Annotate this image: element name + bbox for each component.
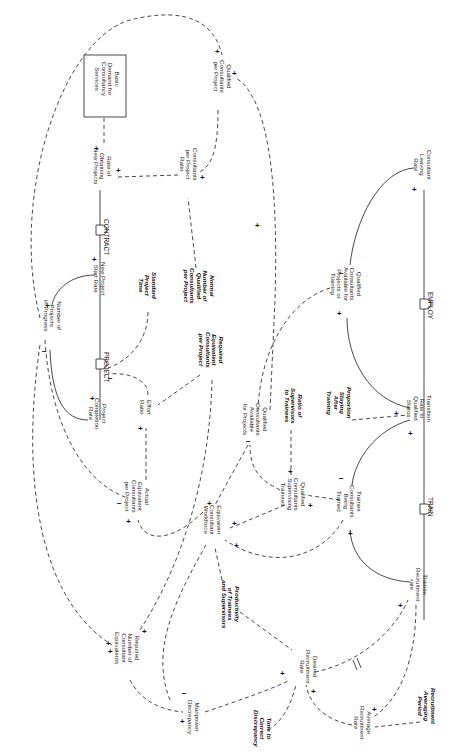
node-trainee-recruitment: TraineeRecruitmentrate — [408, 568, 428, 601]
sign-minus: − — [117, 500, 122, 508]
sign-plus: + — [116, 167, 121, 175]
sign-plus: + — [232, 70, 237, 78]
valve-label-employ: EMPLOY — [427, 292, 434, 319]
sign-plus: + — [215, 48, 220, 56]
sign-plus: + — [92, 256, 97, 264]
node-effort-ratio: EffortRatio — [139, 400, 152, 415]
link-sup-to-qcap — [250, 445, 280, 490]
node-label-line: Desired — [311, 650, 318, 683]
node-label-line: Discrepancy — [187, 700, 194, 734]
sign-plus: + — [232, 520, 237, 528]
node-averaging-period: RecruitmentAveragingPeriod — [416, 688, 436, 724]
node-label-line: Trainees — [280, 478, 287, 511]
sign-plus: + — [94, 145, 99, 153]
node-label-line: Discrepancy — [252, 710, 259, 747]
link-trainee-to-avg — [372, 605, 416, 718]
sign-plus: + — [311, 688, 316, 696]
link-prop-to-transition — [352, 415, 408, 420]
link-sup-to-workforce — [230, 505, 285, 528]
node-proportion-staying: ProportionStayingAfterTraining — [326, 387, 352, 419]
node-new-project-start: New ProjectStart Rate — [93, 262, 106, 295]
node-label-line: Training — [326, 387, 333, 419]
link-projects-to-actual — [45, 340, 125, 497]
node-label-line: Trained — [336, 485, 343, 518]
sign-minus: − — [42, 348, 47, 356]
flow-recruit-to-trainees — [350, 530, 410, 582]
node-label-line: Consultants — [130, 480, 137, 513]
node-required-equiv: RequiredEquivalentConsultantsper Project — [198, 332, 224, 368]
sign-plus: + — [394, 410, 399, 418]
node-standard-time: StandardProjectTime — [137, 272, 157, 299]
node-label-line: to Trainees — [283, 388, 290, 424]
sign-plus: + — [126, 518, 131, 526]
node-label-line: Productivity — [233, 580, 240, 629]
node-label-line: Actual — [143, 480, 150, 513]
sign-plus: + — [348, 530, 353, 538]
node-label-line: Start Rate — [93, 262, 100, 295]
node-rate-obtaining: Rate ofObtainingNew Projects — [92, 148, 112, 184]
node-label-line: Rate — [352, 706, 359, 739]
node-label-line: Qualified — [355, 267, 362, 301]
node-label-line: Normal — [208, 268, 215, 304]
sign-plus: + — [412, 186, 417, 194]
node-label-line: Qualified — [225, 60, 232, 93]
sign-minus: − — [339, 475, 344, 483]
node-label-line: Period — [416, 688, 423, 724]
node-label-line: Consultancy — [100, 62, 107, 96]
link-effort-to-project — [108, 374, 148, 395]
node-label-line: Workforce — [202, 505, 209, 535]
sign-plus: + — [372, 706, 377, 714]
node-label-line: Project — [100, 398, 107, 429]
node-label-line: Required — [133, 632, 140, 664]
node-normal-number: NormalNumber ofQualifiedConsultantsper P… — [182, 268, 215, 304]
node-label-line: Transition — [425, 395, 432, 422]
node-equiv-workforce: EquivalentConsultantWorkforce — [202, 505, 222, 535]
valve-label-train: TRAIN — [427, 497, 434, 517]
sign-plus: + — [180, 718, 185, 726]
link-period-to-avg — [375, 722, 420, 727]
node-label-line: Time to — [265, 710, 272, 747]
node-label-line: per Project — [124, 480, 131, 513]
sign-plus: + — [45, 302, 50, 310]
link-qcap-to-workforce — [215, 445, 248, 505]
node-label-line: Qualified — [195, 268, 202, 304]
link-manpower-to-desired — [205, 680, 290, 712]
node-label-line: Basic — [113, 62, 120, 96]
node-productivity: Productivityof Traineesand Supervisors — [220, 580, 240, 629]
sign-plus: + — [207, 500, 212, 508]
sign-plus: + — [138, 425, 143, 433]
node-label-line: Equivalent — [215, 505, 222, 535]
sign-plus: + — [142, 628, 147, 636]
link-req-to-required-number — [140, 380, 212, 630]
node-label-line: Rate — [412, 150, 419, 180]
node-label-line: Qualified — [299, 478, 306, 511]
node-label-line: Rate of — [105, 148, 112, 184]
sign-plus: + — [90, 395, 95, 403]
valve-label-contract: CONTRACT — [103, 219, 110, 255]
link-required-to-manpower — [130, 680, 183, 712]
link-normal-to-ratio — [188, 198, 196, 268]
node-label-line: Trainee — [355, 485, 362, 518]
node-label-line: and Supervisors — [220, 580, 227, 629]
sign-minus: − — [182, 690, 187, 698]
node-label-line: Ratio of — [296, 388, 303, 424]
node-label-line: Services — [94, 62, 101, 96]
node-label-line: Average — [365, 706, 372, 739]
node-label-line: Being — [342, 485, 349, 518]
node-label-line: Trainee — [421, 568, 428, 601]
node-avg-recruitment: AverageRecruitmentRate — [352, 706, 372, 739]
node-label-line: Consultant — [120, 632, 127, 664]
link-desired-to-trainee — [315, 600, 408, 672]
node-consultants-ratio: Consultantsper ProjectRatio — [178, 148, 198, 181]
node-leaving-rate: ConsultantLeavingRate — [412, 150, 432, 180]
sign-minus: − — [339, 270, 344, 278]
sign-plus: + — [255, 222, 260, 230]
node-label-line: Ratio — [139, 400, 146, 415]
sign-plus: + — [200, 174, 205, 182]
link-trainees-to-workforce — [225, 520, 343, 557]
sign-plus: + — [337, 310, 342, 318]
node-label-line: Consultant — [425, 150, 432, 180]
node-label-line: New Project — [99, 262, 106, 295]
sign-plus: + — [408, 430, 413, 438]
node-qc-available-projects: QualifiedConsultantsAvailablefor Project… — [242, 403, 268, 436]
